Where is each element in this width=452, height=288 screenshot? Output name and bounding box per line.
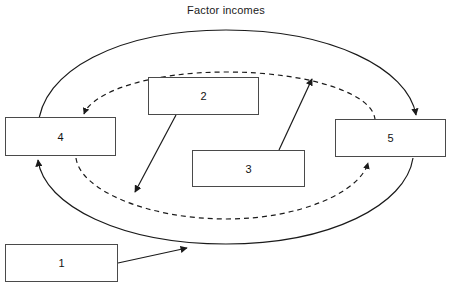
arrow-box3-to-inner-loop [279,79,312,150]
arrow-box1-to-outer-loop [118,248,187,263]
diagram-box-1[interactable]: 1 [5,244,118,282]
diagram-title: Factor incomes [0,4,452,16]
diagram-box-3[interactable]: 3 [192,150,305,187]
diagram-box-4[interactable]: 4 [5,117,116,156]
circular-flow-diagram: Factor incomes 4 5 2 3 1 [0,0,452,288]
arrow-box2-to-inner-loop [135,115,176,192]
diagram-box-5[interactable]: 5 [335,119,446,157]
diagram-box-5-label: 5 [387,132,393,144]
diagram-box-3-label: 3 [245,163,251,175]
diagram-box-2[interactable]: 2 [148,77,259,115]
diagram-box-1-label: 1 [58,257,64,269]
diagram-box-4-label: 4 [57,131,63,143]
diagram-box-2-label: 2 [200,90,206,102]
